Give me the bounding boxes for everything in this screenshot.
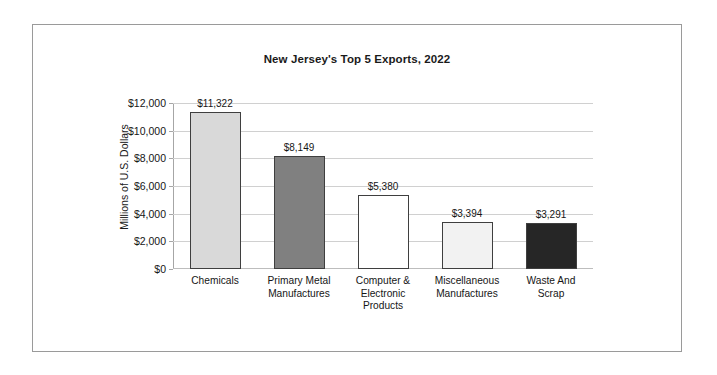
y-tick-label: $2,000 <box>134 235 166 247</box>
y-tick-label: $10,000 <box>128 125 166 137</box>
x-category-label: MiscellaneousManufactures <box>425 275 509 300</box>
figure-frame: New Jersey's Top 5 Exports, 2022 Million… <box>32 24 682 352</box>
bar-value-label: $11,322 <box>197 98 232 109</box>
y-tick-label: $12,000 <box>128 97 166 109</box>
y-tick-label: $4,000 <box>134 208 166 220</box>
x-category-line: Waste And <box>509 275 593 288</box>
bar-value-label: $3,291 <box>536 209 567 220</box>
x-category-line: Miscellaneous <box>425 275 509 288</box>
x-category-label: Primary MetalManufactures <box>257 275 341 300</box>
x-category-line: Manufactures <box>257 288 341 301</box>
chart-title: New Jersey's Top 5 Exports, 2022 <box>33 53 681 65</box>
bar[interactable] <box>190 112 241 269</box>
y-tick-label: $8,000 <box>134 152 166 164</box>
x-category-line: Electronic <box>341 288 425 301</box>
y-axis-title: Millions of U.S. Dollars <box>116 87 132 267</box>
y-tick-label: $0 <box>154 263 166 275</box>
bar-group[interactable]: $5,380 <box>358 103 409 269</box>
x-category-line: Chemicals <box>173 275 257 288</box>
x-category-line: Primary Metal <box>257 275 341 288</box>
bar[interactable] <box>526 223 577 269</box>
bar-group[interactable]: $3,291 <box>526 103 577 269</box>
x-category-label: Chemicals <box>173 275 257 288</box>
bar-group[interactable]: $11,322 <box>190 103 241 269</box>
bar[interactable] <box>442 222 493 269</box>
bar-group[interactable]: $8,149 <box>274 103 325 269</box>
bar-value-label: $3,394 <box>452 208 483 219</box>
bar-group[interactable]: $3,394 <box>442 103 493 269</box>
y-tick-mark <box>169 269 173 270</box>
bar-value-label: $8,149 <box>284 142 315 153</box>
y-axis-title-text: Millions of U.S. Dollars <box>118 124 130 230</box>
plot-area: $0$2,000$4,000$6,000$8,000$10,000$12,000… <box>173 103 593 269</box>
x-category-label: Waste AndScrap <box>509 275 593 300</box>
x-category-line: Scrap <box>509 288 593 301</box>
bar-value-label: $5,380 <box>368 181 399 192</box>
x-category-line: Products <box>341 300 425 313</box>
x-category-label: Computer &ElectronicProducts <box>341 275 425 313</box>
x-category-line: Computer & <box>341 275 425 288</box>
y-tick-label: $6,000 <box>134 180 166 192</box>
bar[interactable] <box>358 195 409 269</box>
x-category-line: Manufactures <box>425 288 509 301</box>
bar[interactable] <box>274 156 325 269</box>
chart-page: { "figure": { "title": "New Jersey's Top… <box>0 0 717 375</box>
